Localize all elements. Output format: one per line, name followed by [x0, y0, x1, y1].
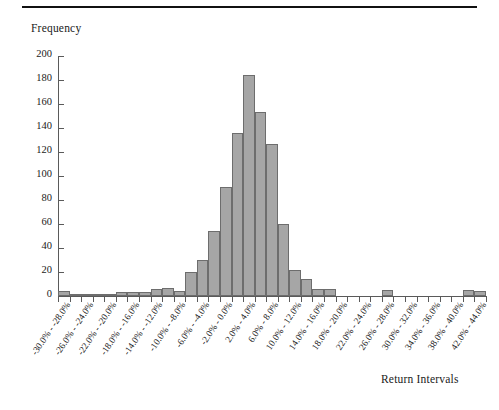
x-axis-tick-mark: [359, 296, 360, 302]
x-axis-line: [58, 296, 487, 297]
x-axis-tick-mark: [405, 296, 406, 302]
x-axis-tick-mark: [93, 296, 94, 302]
x-axis-tick-mark: [243, 296, 244, 302]
y-axis-tick-label: 0: [12, 288, 52, 299]
y-axis-tick-label: 140: [12, 120, 52, 131]
x-axis-tick-mark: [220, 296, 221, 302]
histogram-bar: [174, 291, 186, 296]
x-axis-tick-mark: [116, 296, 117, 302]
histogram-bar: [220, 187, 232, 296]
y-axis-tick-label: 20: [12, 264, 52, 275]
y-axis-tick-label: 180: [12, 72, 52, 83]
histogram-bar: [58, 291, 70, 296]
histogram-bar: [81, 294, 93, 296]
histogram-bar: [474, 291, 486, 296]
x-axis-tick-mark: [185, 296, 186, 302]
x-axis-tick-mark: [324, 296, 325, 302]
histogram-bar: [255, 112, 267, 296]
x-axis-tick-mark: [104, 296, 105, 302]
y-axis-tick-label: 40: [12, 240, 52, 251]
y-axis-title: Frequency: [31, 22, 81, 34]
y-axis-tick-label: 160: [12, 96, 52, 107]
x-axis-tick-mark: [393, 296, 394, 302]
x-axis-tick-mark: [127, 296, 128, 302]
y-axis-tick-label: 100: [12, 168, 52, 179]
y-axis-tick-label: 60: [12, 216, 52, 227]
x-axis-tick-mark: [474, 296, 475, 302]
histogram-bar: [463, 290, 475, 296]
x-axis-tick-mark: [266, 296, 267, 302]
histogram-bar: [104, 294, 116, 296]
x-axis-tick-mark: [174, 296, 175, 302]
x-axis-tick-mark: [312, 296, 313, 302]
histogram-bar: [70, 294, 82, 296]
y-axis-tick-label: 80: [12, 192, 52, 203]
histogram-bar: [139, 292, 151, 296]
x-axis-tick-mark: [370, 296, 371, 302]
y-axis-tick-label: 200: [12, 48, 52, 59]
x-axis-tick-mark: [336, 296, 337, 302]
x-axis-tick-mark: [451, 296, 452, 302]
x-axis-tick-mark: [139, 296, 140, 302]
x-axis-tick-mark: [81, 296, 82, 302]
x-axis-tick-mark: [428, 296, 429, 302]
histogram-bar: [116, 292, 128, 296]
x-axis-tick-mark: [440, 296, 441, 302]
histogram-bar: [382, 290, 394, 296]
histogram-figure: Frequency 020406080100120140160180200 -3…: [0, 0, 499, 410]
x-axis-tick-mark: [382, 296, 383, 302]
x-axis-tick-mark: [208, 296, 209, 302]
x-axis-tick-mark: [255, 296, 256, 302]
x-axis-tick-mark: [197, 296, 198, 302]
x-axis-tick-mark: [70, 296, 71, 302]
histogram-bar: [243, 75, 255, 296]
histogram-bar: [289, 270, 301, 296]
histogram-bar: [232, 133, 244, 296]
x-axis-tick-mark: [486, 296, 487, 302]
x-axis-tick-mark: [278, 296, 279, 302]
x-axis-tick-mark: [232, 296, 233, 302]
x-axis-tick-mark: [347, 296, 348, 302]
histogram-bar: [266, 144, 278, 296]
y-axis-tick-label: 120: [12, 144, 52, 155]
histogram-bar: [278, 224, 290, 296]
histogram-bar: [162, 288, 174, 296]
x-axis-title: Return Intervals: [381, 373, 459, 385]
x-axis-tick-mark: [162, 296, 163, 302]
histogram-bar: [312, 289, 324, 296]
histogram-bar: [93, 294, 105, 296]
x-axis-tick-mark: [58, 296, 59, 302]
histogram-bar: [185, 272, 197, 296]
x-axis-tick-mark: [301, 296, 302, 302]
x-axis-tick-mark: [289, 296, 290, 302]
x-axis-tick-mark: [151, 296, 152, 302]
histogram-bar: [324, 289, 336, 296]
histogram-bar: [208, 231, 220, 296]
histogram-bar: [197, 260, 209, 296]
histogram-bar: [301, 279, 313, 296]
histogram-bar: [151, 289, 163, 296]
x-axis-tick-mark: [417, 296, 418, 302]
x-axis-tick-mark: [463, 296, 464, 302]
histogram-bar: [127, 292, 139, 296]
histogram-bars: [58, 56, 486, 296]
